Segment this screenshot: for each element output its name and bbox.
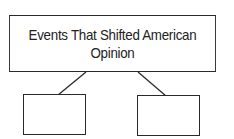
child-node-left[interactable] <box>23 94 86 135</box>
child-node-right[interactable] <box>137 95 200 136</box>
root-node-title: Events That Shifted American Opinion <box>10 26 215 62</box>
connector-right <box>138 72 166 96</box>
root-node: Events That Shifted American Opinion <box>9 15 216 72</box>
connector-left <box>58 72 86 95</box>
